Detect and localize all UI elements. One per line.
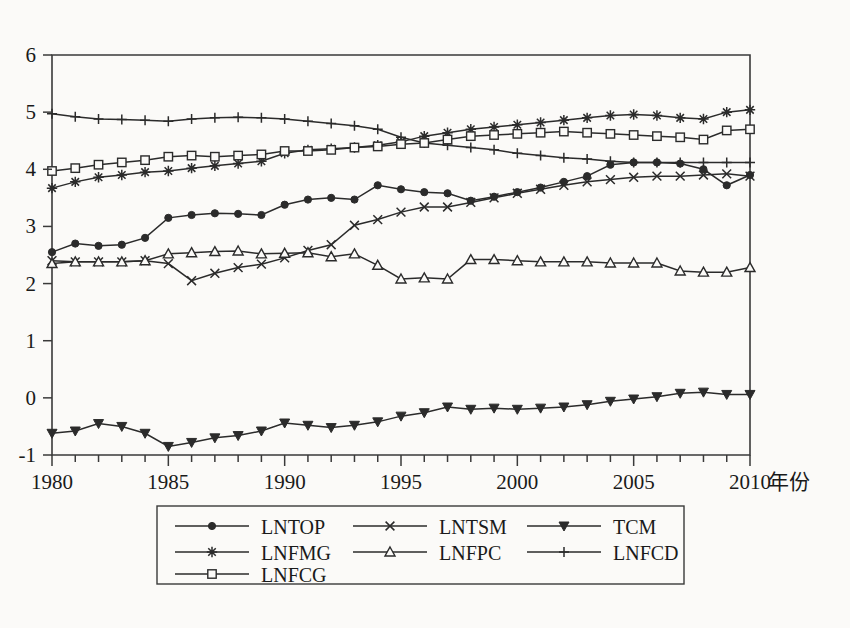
legend-item-lnfpc[interactable]: LNFPC (353, 542, 501, 564)
marker-open-square (48, 167, 56, 175)
marker-filled-circle (258, 211, 265, 218)
y-tick-label: -1 (19, 443, 37, 467)
marker-plus (187, 114, 197, 124)
marker-filled-circle (235, 210, 242, 217)
marker-asterisk (140, 167, 150, 177)
marker-asterisk (512, 120, 522, 130)
marker-asterisk (117, 170, 127, 180)
series-polyline (52, 162, 750, 252)
line-chart: 1980198519901995200020052010 -10123456 年… (0, 0, 850, 628)
marker-filled-circle (397, 186, 404, 193)
y-tick-label: 1 (26, 329, 37, 353)
marker-asterisk (722, 107, 732, 117)
legend-label: LNTOP (261, 516, 325, 538)
legend-item-lntop[interactable]: LNTOP (175, 516, 325, 538)
marker-open-square (187, 151, 195, 159)
y-tick-label: 2 (26, 272, 37, 296)
x-tick-label: 2010 (729, 470, 771, 494)
marker-open-square (141, 156, 149, 164)
marker-filled-circle (444, 190, 451, 197)
marker-open-square (234, 151, 242, 159)
marker-filled-circle (328, 194, 335, 201)
marker-asterisk (698, 114, 708, 124)
marker-plus (698, 157, 708, 167)
marker-filled-circle (351, 196, 358, 203)
legend-item-tcm[interactable]: TCM (527, 516, 657, 538)
marker-asterisk (163, 166, 173, 176)
marker-open-square (164, 153, 172, 161)
x-axis-ticks: 1980198519901995200020052010 (31, 455, 771, 494)
series-plot-area (47, 105, 755, 452)
x-tick-label: 2000 (496, 470, 538, 494)
marker-filled-circle (208, 522, 215, 529)
marker-plus (745, 157, 755, 167)
marker-open-square (676, 133, 684, 141)
marker-open-square (467, 132, 475, 140)
series-lntop (48, 159, 753, 256)
marker-plus (489, 145, 499, 155)
legend-label: LNFMG (261, 542, 331, 564)
marker-filled-triangle-down (163, 442, 173, 451)
legend-item-lnfcg[interactable]: LNFCG (175, 564, 327, 586)
marker-plus (163, 116, 173, 126)
marker-filled-triangle-down (326, 424, 336, 433)
marker-filled-circle (374, 182, 381, 189)
legend-label: LNTSM (439, 516, 507, 538)
marker-open-square (606, 130, 614, 138)
marker-plus (280, 114, 290, 124)
marker-asterisk (605, 110, 615, 120)
marker-filled-circle (746, 171, 753, 178)
marker-plus (70, 112, 80, 122)
legend-item-lnfmg[interactable]: LNFMG (175, 542, 331, 564)
marker-plus (675, 157, 685, 167)
marker-open-square (560, 127, 568, 135)
marker-plus (536, 151, 546, 161)
marker-open-square (513, 130, 521, 138)
marker-open-square (653, 132, 661, 140)
marker-plus (582, 154, 592, 164)
marker-filled-circle (48, 249, 55, 256)
marker-open-square (71, 164, 79, 172)
x-tick-label: 2005 (613, 470, 655, 494)
marker-plus (256, 113, 266, 123)
marker-open-square (397, 140, 405, 148)
marker-open-square (746, 125, 754, 133)
legend-item-lnfcd[interactable]: LNFCD (527, 542, 679, 564)
marker-cross-x (187, 276, 196, 285)
marker-asterisk (745, 105, 755, 115)
marker-plus (559, 547, 569, 557)
marker-filled-circle (211, 210, 218, 217)
marker-plus (652, 157, 662, 167)
marker-plus (117, 115, 127, 125)
marker-plus (47, 109, 57, 119)
y-tick-label: 5 (26, 100, 37, 124)
marker-open-square (536, 129, 544, 137)
legend-label: TCM (613, 516, 657, 538)
marker-plus (326, 119, 336, 129)
marker-open-square (327, 146, 335, 154)
marker-open-square (723, 126, 731, 134)
marker-asterisk (186, 163, 196, 173)
marker-filled-circle (141, 234, 148, 241)
marker-open-square (350, 143, 358, 151)
legend-item-lntsm[interactable]: LNTSM (353, 516, 507, 538)
marker-asterisk (47, 183, 57, 193)
marker-plus (629, 157, 639, 167)
marker-filled-circle (95, 242, 102, 249)
marker-open-square (94, 161, 102, 169)
marker-plus (373, 124, 383, 134)
marker-open-triangle-up (373, 260, 383, 269)
marker-asterisk (207, 547, 217, 557)
x-tick-label: 1990 (264, 470, 306, 494)
marker-open-square (118, 158, 126, 166)
y-tick-label: 4 (26, 157, 37, 181)
marker-filled-circle (304, 196, 311, 203)
marker-open-square (211, 153, 219, 161)
marker-filled-circle (723, 182, 730, 189)
legend-label: LNFPC (439, 542, 501, 564)
y-axis-ticks: -10123456 (19, 43, 53, 467)
marker-asterisk (535, 117, 545, 127)
x-tick-label: 1995 (380, 470, 422, 494)
marker-filled-circle (72, 240, 79, 247)
marker-plus (210, 113, 220, 123)
